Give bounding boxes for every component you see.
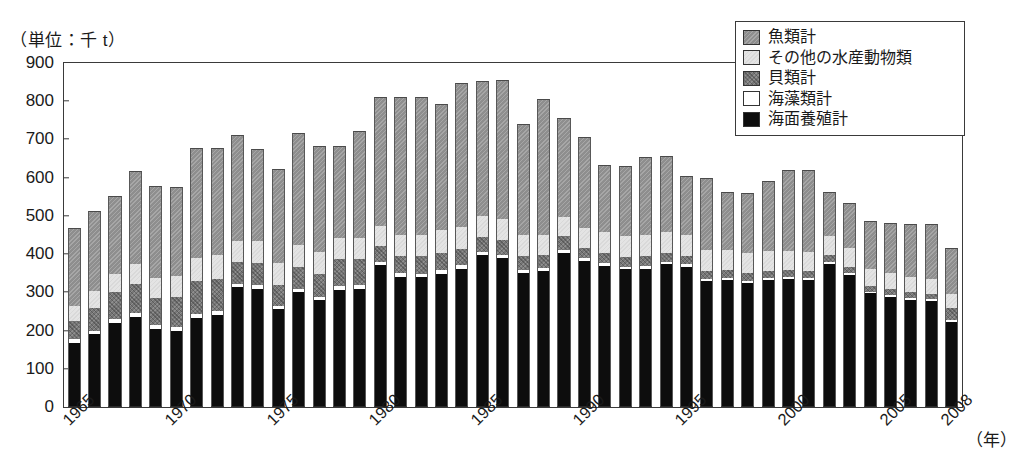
bar-segment-fish <box>313 146 326 252</box>
bar-stack <box>190 148 203 407</box>
bar-segment-fish <box>700 178 713 250</box>
bar-column[interactable] <box>578 63 591 407</box>
bar-column[interactable] <box>88 63 101 407</box>
bar-segment-shell <box>313 274 326 297</box>
bar-column[interactable] <box>537 63 550 407</box>
legend-item[interactable]: その他の水産動物類 <box>743 48 956 69</box>
bar-segment-aqua <box>231 287 244 407</box>
bar-column[interactable] <box>149 63 162 407</box>
bar-segment-aqua <box>619 269 632 407</box>
bar-stack <box>537 99 550 407</box>
bar-segment-aqua <box>455 269 468 407</box>
bar-stack <box>455 83 468 407</box>
bar-segment-fish <box>415 97 428 235</box>
bar-segment-fish <box>884 223 897 273</box>
bar-segment-aqua <box>741 283 754 407</box>
bar-column[interactable] <box>190 63 203 407</box>
bar-segment-shell <box>700 271 713 279</box>
bar-column[interactable] <box>170 63 183 407</box>
bar-segment-fish <box>864 221 877 269</box>
bar-segment-shell <box>68 321 81 339</box>
bar-stack <box>782 170 795 407</box>
bar-segment-aqua <box>578 261 591 407</box>
legend-item[interactable]: 貝類計 <box>743 68 956 89</box>
bar-segment-other <box>374 226 387 246</box>
bar-segment-fish <box>782 170 795 251</box>
bar-stack <box>333 146 346 407</box>
bar-column[interactable] <box>415 63 428 407</box>
bar-segment-shell <box>721 270 734 278</box>
bar-segment-shell <box>415 256 428 274</box>
bar-segment-other <box>721 250 734 270</box>
bar-stack <box>313 146 326 407</box>
bar-column[interactable] <box>435 63 448 407</box>
bar-segment-other <box>945 294 958 309</box>
bar-segment-other <box>639 235 652 256</box>
bar-segment-fish <box>843 203 856 248</box>
bar-segment-other <box>394 235 407 256</box>
bar-stack <box>272 169 285 407</box>
bar-segment-other <box>557 217 570 236</box>
bar-segment-aqua <box>945 322 958 407</box>
bar-segment-shell <box>496 240 509 255</box>
bar-column[interactable] <box>496 63 509 407</box>
bar-stack <box>517 124 530 407</box>
bar-segment-shell <box>374 246 387 262</box>
bar-segment-fish <box>353 131 366 238</box>
bar-segment-aqua <box>680 267 693 407</box>
bar-stack <box>211 148 224 407</box>
bar-segment-aqua <box>190 318 203 407</box>
bar-column[interactable] <box>394 63 407 407</box>
bar-stack <box>129 171 142 407</box>
bar-segment-aqua <box>517 273 530 407</box>
bar-stack <box>170 187 183 407</box>
legend-item[interactable]: 海藻類計 <box>743 89 956 110</box>
bar-column[interactable] <box>680 63 693 407</box>
bar-column[interactable] <box>721 63 734 407</box>
legend-item[interactable]: 海面養殖計 <box>743 109 956 130</box>
bar-segment-aqua <box>251 289 264 407</box>
bar-column[interactable] <box>517 63 530 407</box>
bar-column[interactable] <box>129 63 142 407</box>
bar-column[interactable] <box>251 63 264 407</box>
bar-stack <box>945 248 958 407</box>
bar-column[interactable] <box>557 63 570 407</box>
bar-segment-other <box>272 263 285 285</box>
bar-column[interactable] <box>455 63 468 407</box>
bar-column[interactable] <box>598 63 611 407</box>
bar-column[interactable] <box>272 63 285 407</box>
bar-segment-fish <box>904 224 917 277</box>
legend-item[interactable]: 魚類計 <box>743 27 956 48</box>
bar-column[interactable] <box>639 63 652 407</box>
bar-column[interactable] <box>68 63 81 407</box>
bar-column[interactable] <box>333 63 346 407</box>
bar-segment-shell <box>353 259 366 285</box>
bar-segment-shell <box>251 263 264 286</box>
bar-column[interactable] <box>108 63 121 407</box>
legend-swatch-other <box>743 50 760 65</box>
bar-segment-other <box>88 291 101 308</box>
bar-segment-shell <box>537 255 550 268</box>
bar-segment-shell <box>945 308 958 320</box>
bar-stack <box>231 135 244 407</box>
bar-column[interactable] <box>700 63 713 407</box>
bar-segment-other <box>741 253 754 273</box>
bar-column[interactable] <box>211 63 224 407</box>
y-axis-tick-label: 800 <box>26 91 54 111</box>
bar-column[interactable] <box>292 63 305 407</box>
bar-segment-fish <box>802 170 815 252</box>
bar-segment-fish <box>129 171 142 264</box>
bar-segment-aqua <box>925 301 938 407</box>
bar-segment-fish <box>108 196 121 274</box>
bar-column[interactable] <box>619 63 632 407</box>
bar-column[interactable] <box>313 63 326 407</box>
bar-segment-other <box>129 264 142 283</box>
bar-stack <box>864 221 877 407</box>
bar-column[interactable] <box>374 63 387 407</box>
bar-stack <box>68 228 81 407</box>
bar-column[interactable] <box>660 63 673 407</box>
bar-column[interactable] <box>353 63 366 407</box>
bar-segment-fish <box>721 192 734 249</box>
bar-column[interactable] <box>231 63 244 407</box>
bar-column[interactable] <box>476 63 489 407</box>
